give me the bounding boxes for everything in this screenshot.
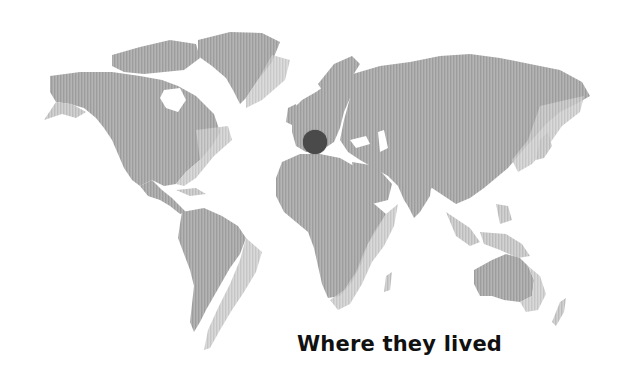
world-map [0,0,630,373]
madagascar [384,272,392,292]
australia [474,254,534,302]
new-zealand [552,298,566,326]
map-caption: Where they lived [297,332,502,356]
arctic-islands [112,40,200,74]
southeast-asia-islands [446,204,530,258]
south-america [178,208,246,332]
world-map-graphic [0,0,630,373]
caribbean [176,188,206,196]
india [402,180,432,218]
location-marker[interactable] [303,130,327,154]
